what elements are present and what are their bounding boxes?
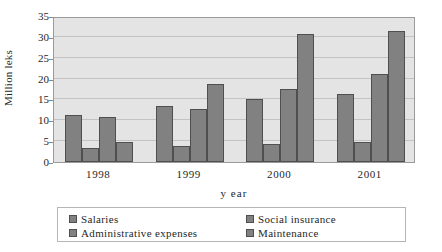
bar-2000-social-insurance	[263, 144, 280, 162]
bar-group-1999	[145, 18, 236, 162]
y-axis-tick-label: 20	[5, 74, 49, 85]
bar-group-1998	[54, 18, 145, 162]
x-axis-tick-label-2000: 2000	[234, 168, 325, 181]
x-axis-tick-labels: 1998199920002001	[53, 168, 415, 184]
bar-2000-administrative-expenses	[280, 89, 297, 162]
y-axis-tick-label: 35	[5, 11, 49, 22]
x-axis-tick-label-2001: 2001	[325, 168, 416, 181]
legend-entry-administrative-expenses: Administrative expenses	[69, 226, 198, 240]
plot-area	[53, 17, 415, 163]
y-axis-tick-label: 0	[5, 157, 49, 168]
bar-1999-maintenance	[207, 84, 224, 162]
bar-1999-salaries	[156, 106, 173, 162]
x-axis-tick-label-1998: 1998	[53, 168, 144, 181]
legend-entry-social-insurance: Social insurance	[246, 212, 336, 226]
legend-entry-salaries: Salaries	[69, 212, 119, 226]
y-axis-tick-label: 25	[5, 53, 49, 64]
legend: SalariesSocial insuranceAdministrative e…	[57, 207, 406, 242]
bar-2000-salaries	[246, 99, 263, 162]
legend-label: Social insurance	[258, 213, 336, 225]
y-axis-tick-labels: 05101520253035	[0, 0, 49, 252]
x-axis-tick-label-1999: 1999	[144, 168, 235, 181]
bar-chart: Million leks 05101520253035 199819992000…	[0, 0, 442, 252]
legend-entry-maintenance: Maintenance	[246, 226, 319, 240]
bar-1998-salaries	[65, 115, 82, 162]
bar-group-2001	[326, 18, 417, 162]
bar-2000-maintenance	[297, 34, 314, 162]
bar-1998-administrative-expenses	[99, 117, 116, 162]
bar-2001-administrative-expenses	[371, 74, 388, 162]
bar-2001-maintenance	[388, 31, 405, 162]
legend-label: Salaries	[81, 213, 119, 225]
legend-label: Administrative expenses	[81, 227, 198, 239]
y-axis-tick-label: 5	[5, 136, 49, 147]
bar-2001-social-insurance	[354, 142, 371, 162]
legend-swatch-icon	[246, 229, 254, 237]
bar-2001-salaries	[337, 94, 354, 162]
bar-1999-administrative-expenses	[190, 109, 207, 162]
y-axis-tick-label: 30	[5, 32, 49, 43]
legend-swatch-icon	[246, 215, 254, 223]
y-axis-tick-mark	[49, 163, 53, 164]
legend-swatch-icon	[69, 215, 77, 223]
legend-swatch-icon	[69, 229, 77, 237]
y-axis-tick-label: 10	[5, 115, 49, 126]
bar-group-2000	[235, 18, 326, 162]
legend-label: Maintenance	[258, 227, 319, 239]
bar-1998-maintenance	[116, 142, 133, 162]
y-axis-tick-label: 15	[5, 94, 49, 105]
bar-1998-social-insurance	[82, 148, 99, 162]
bar-1999-social-insurance	[173, 146, 190, 162]
x-axis-title: y ear	[53, 187, 415, 199]
